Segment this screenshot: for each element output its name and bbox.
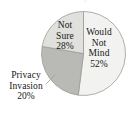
pie-label-would-not-mind: Would Not Mind 52% xyxy=(79,27,119,69)
pie-label-privacy-invasion: Privacy Invasion 20% xyxy=(1,70,51,102)
pie-chart-figure: Would you mind Would Not Mind 52% Not Su… xyxy=(0,0,128,115)
pie-label-not-sure: Not Sure 28% xyxy=(49,20,81,52)
pie-value-privacy-invasion: 20% xyxy=(1,91,51,102)
pie-label-would-not-mind-line1: Would xyxy=(79,27,119,38)
pie-value-would-not-mind: 52% xyxy=(79,59,119,70)
pie-value-not-sure: 28% xyxy=(49,41,81,52)
pie-label-privacy-invasion-line1: Privacy xyxy=(1,70,51,81)
pie-label-not-sure-line2: Sure xyxy=(49,31,81,42)
pie-label-not-sure-line1: Not xyxy=(49,20,81,31)
pie-label-privacy-invasion-line2: Invasion xyxy=(1,81,51,92)
pie-label-would-not-mind-line3: Mind xyxy=(79,48,119,59)
pie-label-would-not-mind-line2: Not xyxy=(79,38,119,49)
